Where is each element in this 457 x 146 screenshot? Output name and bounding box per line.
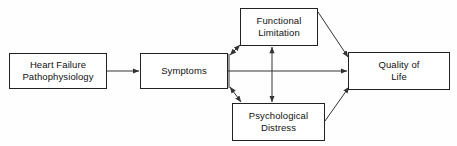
node-functional-limitation: Functional Limitation — [240, 8, 318, 46]
edge-functional-limitation-to-quality-of-life — [318, 12, 348, 57]
node-label-psychological-distress: Psychological Distress — [249, 110, 308, 134]
node-label-symptoms: Symptoms — [161, 65, 207, 77]
node-heart-failure-pathophysiology: Heart Failure Pathophysiology — [9, 53, 107, 89]
node-label-heart-failure-pathophysiology: Heart Failure Pathophysiology — [22, 59, 93, 83]
edge-symptoms-to-psychological-distress — [230, 87, 241, 102]
node-psychological-distress: Psychological Distress — [232, 103, 325, 141]
edge-symptoms-to-functional-limitation — [230, 45, 240, 55]
node-quality-of-life: Quality of Life — [348, 52, 450, 90]
node-label-functional-limitation: Functional Limitation — [257, 15, 302, 39]
node-label-quality-of-life: Quality of Life — [378, 59, 419, 83]
diagram-canvas: Heart Failure Pathophysiology Symptoms F… — [0, 0, 457, 146]
node-symptoms: Symptoms — [140, 53, 228, 89]
edge-psychological-distress-to-quality-of-life — [325, 87, 349, 121]
